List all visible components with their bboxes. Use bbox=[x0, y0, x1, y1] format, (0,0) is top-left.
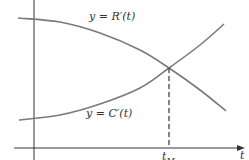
r-curve-label: y = R′(t) bbox=[89, 11, 135, 22]
x-axis-label: t bbox=[240, 150, 244, 160]
c-curve-label: y = C′(t) bbox=[86, 108, 132, 119]
c-prime-curve bbox=[19, 24, 224, 120]
t-m-subscript: M bbox=[166, 156, 174, 160]
chart-figure bbox=[0, 0, 249, 160]
t-m-tick-label: tM bbox=[162, 151, 175, 160]
r-prime-curve bbox=[18, 18, 226, 111]
